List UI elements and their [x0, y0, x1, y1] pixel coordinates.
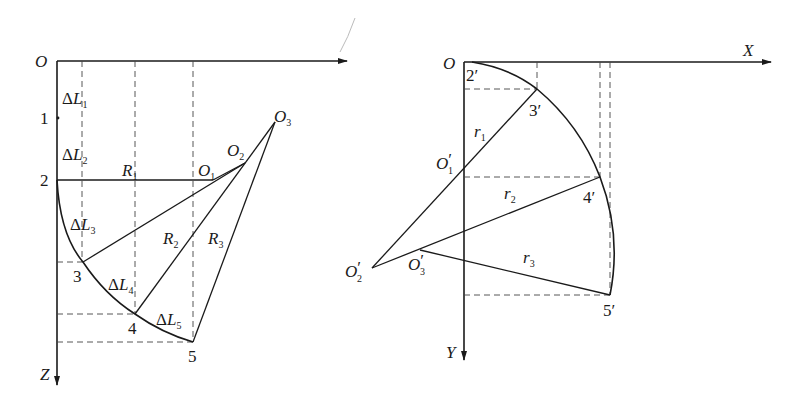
origin-label: O: [443, 54, 455, 73]
delta-l1-label: ΔL1: [62, 89, 87, 110]
point-label-2p: 2′: [466, 66, 478, 85]
point-label-3: 3: [73, 267, 82, 286]
center-o1-label: O1: [198, 161, 215, 182]
z-axis-label: Z: [40, 365, 50, 384]
projected-arc: [472, 62, 614, 295]
radius-r3-line: [420, 250, 610, 295]
point-label-5: 5: [188, 347, 197, 366]
diagram-canvas: O 1 2 3 4 5 Z ΔL1 ΔL2 ΔL3 ΔL4 ΔL5 R1 R2 …: [0, 0, 805, 401]
x-axis-label: X: [742, 41, 754, 60]
origin-label: O: [35, 52, 47, 71]
center-link: [213, 163, 245, 180]
delta-l4-label: ΔL4: [108, 275, 133, 296]
radius-r1-line: [372, 89, 537, 268]
point-label-4p: 4′: [583, 188, 595, 207]
point-label-2: 2: [40, 171, 49, 190]
point-label-4: 4: [128, 319, 137, 338]
point-label-5p: 5′: [603, 301, 615, 320]
right-view: O X Y 2′ 3′ 4′ 5′ r1 r2 r3 O′1 O′2 O′3: [345, 41, 771, 362]
r3-label: R3: [207, 229, 223, 250]
scan-artifact: [340, 18, 355, 52]
r1-label: r1: [474, 122, 486, 143]
point-label-1: 1: [40, 109, 49, 128]
delta-l2-label: ΔL2: [62, 145, 87, 166]
r2-label: r2: [504, 184, 516, 205]
radius-r2-line: [372, 177, 600, 268]
center-o2p-label: O′2: [345, 258, 362, 284]
point-1-marker: [57, 117, 60, 120]
delta-l5-label: ΔL5: [156, 310, 181, 331]
center-o1p-label: O′1: [436, 150, 453, 176]
center-o3p-label: O′3: [408, 251, 425, 277]
y-axis-label: Y: [446, 343, 457, 362]
point-label-3p: 3′: [529, 101, 541, 120]
center-o2-label: O2: [227, 141, 244, 162]
center-o3-label: O3: [274, 107, 291, 128]
r2-label: R2: [162, 229, 178, 250]
r3-label: r3: [523, 248, 535, 269]
delta-l3-label: ΔL3: [70, 215, 95, 236]
left-view: O 1 2 3 4 5 Z ΔL1 ΔL2 ΔL3 ΔL4 ΔL5 R1 R2 …: [35, 52, 347, 385]
